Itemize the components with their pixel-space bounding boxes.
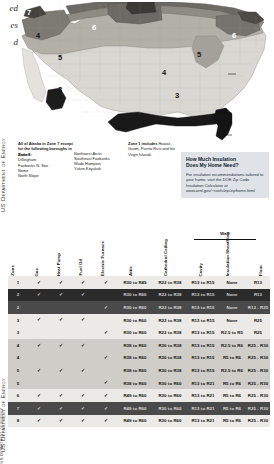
cell-fuel_oil: ✓: [72, 402, 94, 415]
cell-cavity: R13 to R21: [188, 377, 218, 390]
cell-fuel_oil: ✓: [72, 289, 94, 302]
cell-gas: ✓: [28, 314, 50, 327]
table-row[interactable]: 2✓R30 to R60R22 to R38R13 to R15NoneR13 …: [8, 301, 270, 314]
cell-heat_pump: [50, 377, 72, 390]
check-icon: ✓: [104, 329, 108, 335]
cell-sheathing: R5 to R6: [218, 352, 246, 365]
edge-word-3: d: [0, 34, 18, 51]
cell-zone: 1: [8, 276, 28, 289]
cell-zone: 4: [8, 352, 28, 365]
cell-zone: 5: [8, 364, 28, 377]
cell-cavity: R13 to R21: [188, 389, 218, 402]
cell-electric_furnace: [94, 289, 118, 302]
wall-group-rule: [194, 239, 256, 240]
cell-electric_furnace: ✓: [94, 326, 118, 339]
cell-floor: R25: [246, 326, 270, 339]
col-header-cathedral-ceiling: Cathedral Ceiling: [163, 239, 168, 276]
map-zone-label-5-3: 5: [58, 53, 62, 62]
cell-sheathing: R2.5 to R6: [218, 339, 246, 352]
table-row[interactable]: 8✓✓✓✓R49 to R60R30 to R60R13 to R21R5 to…: [8, 415, 270, 428]
cell-sheathing: R5 to R6: [218, 377, 246, 390]
cell-gas: ✓: [28, 339, 50, 352]
cell-attic: R49 to R60: [118, 402, 152, 415]
map-zone-label-2-9: 2: [223, 106, 227, 115]
map-zone-label-7-0: 7: [27, 8, 31, 17]
cell-zone: 8: [8, 415, 28, 428]
col-header-fuel-oil: Fuel Oil: [78, 259, 83, 276]
cell-fuel_oil: [72, 301, 94, 314]
table-row[interactable]: 3✓✓✓R30 to R60R22 to R38R13 to R15NoneR2…: [8, 314, 270, 327]
cell-floor: R13: [246, 289, 270, 302]
table-row[interactable]: 4✓✓✓R38 to R60R30 to R38R13 to R15R2.5 t…: [8, 339, 270, 352]
cell-gas: [28, 326, 50, 339]
cell-electric_furnace: ✓: [94, 402, 118, 415]
edge-word-1: ed: [0, 0, 18, 17]
table-row[interactable]: 5✓R38 to R60R30 to R60R13 to R21R5 to R6…: [8, 377, 270, 390]
cell-attic: R38 to R60: [118, 364, 152, 377]
check-icon: ✓: [37, 342, 41, 348]
col-header-zone: Zone: [10, 265, 15, 276]
cell-fuel_oil: [72, 352, 94, 365]
table-row[interactable]: 6✓✓✓✓R49 to R60R30 to R60R13 to R21R5 to…: [8, 389, 270, 402]
cell-heat_pump: [50, 301, 72, 314]
check-icon: ✓: [37, 405, 41, 411]
table-row[interactable]: 7✓✓✓✓R49 to R60R30 to R60R13 to R21R5 to…: [8, 402, 270, 415]
check-icon: ✓: [81, 392, 85, 398]
cell-cavity: R13 to R15: [188, 289, 218, 302]
cell-zone: 7: [8, 402, 28, 415]
col-header-floor: Floor: [258, 265, 263, 276]
cell-zone: 3: [8, 326, 28, 339]
cell-zone: 4: [8, 339, 28, 352]
table-body: 1✓✓✓✓R30 to R49R22 to R38R13 to R15NoneR…: [8, 276, 270, 427]
page-edge-text: ed es d: [0, 0, 18, 51]
cell-sheathing: None: [218, 301, 246, 314]
cell-gas: [28, 301, 50, 314]
alaska-boroughs-right: Northwest Arctic Southeast Fairbanks Wad…: [74, 151, 126, 172]
table-row[interactable]: 2✓✓✓R30 to R60R22 to R38R13 to R15NoneR1…: [8, 289, 270, 302]
cell-heat_pump: [50, 326, 72, 339]
borough-item: North Slope: [18, 173, 56, 178]
check-icon: ✓: [81, 316, 85, 322]
cell-attic: R30 to R60: [118, 301, 152, 314]
col-header-attic: Attic: [128, 266, 133, 276]
cell-heat_pump: ✓: [50, 415, 72, 428]
cell-cathedral: R22 to R38: [152, 326, 188, 339]
cell-floor: R25 - R30: [246, 377, 270, 390]
cell-attic: R30 to R60: [118, 289, 152, 302]
cell-attic: R49 to R60: [118, 389, 152, 402]
cell-attic: R38 to R60: [118, 377, 152, 390]
check-icon: ✓: [104, 304, 108, 310]
cell-electric_furnace: ✓: [94, 377, 118, 390]
col-header-heat-pump: Heat Pump: [56, 253, 61, 276]
cell-gas: ✓: [28, 289, 50, 302]
table-row[interactable]: 5✓✓✓R38 to R60R30 to R38R13 to R15R2.5 t…: [8, 364, 270, 377]
callout-url[interactable]: www.ornl.gov/~roofs/zip/ziphome.html: [186, 188, 255, 193]
cell-cathedral: R30 to R38: [152, 352, 188, 365]
cell-electric_furnace: ✓: [94, 389, 118, 402]
cell-gas: ✓: [28, 389, 50, 402]
cell-gas: ✓: [28, 415, 50, 428]
table-row[interactable]: 1✓✓✓✓R30 to R49R22 to R38R13 to R15NoneR…: [8, 276, 270, 289]
cell-gas: ✓: [28, 402, 50, 415]
cell-electric_furnace: [94, 314, 118, 327]
check-icon: ✓: [104, 279, 108, 285]
cell-zone: 3: [8, 314, 28, 327]
check-icon: ✓: [59, 417, 63, 423]
cell-zone: 2: [8, 289, 28, 302]
callout-heading-line2: Does My Home Need?: [186, 162, 239, 168]
cell-heat_pump: ✓: [50, 314, 72, 327]
table-row[interactable]: 4✓R38 to R60R30 to R38R13 to R15R5 to R6…: [8, 352, 270, 365]
cell-attic: R38 to R60: [118, 339, 152, 352]
doe-vertical-rail-top: US Department of Energy: [0, 138, 6, 212]
cell-heat_pump: ✓: [50, 276, 72, 289]
check-icon: ✓: [37, 367, 41, 373]
cell-floor: R13 - R25: [246, 301, 270, 314]
cell-cathedral: R22 to R38: [152, 289, 188, 302]
check-icon: ✓: [81, 291, 85, 297]
cell-heat_pump: ✓: [50, 289, 72, 302]
table-row[interactable]: 3✓R30 to R60R22 to R38R13 to R15R2.5 to …: [8, 326, 270, 339]
cell-electric_furnace: ✓: [94, 276, 118, 289]
cell-cavity: R13 to R15: [188, 276, 218, 289]
check-icon: ✓: [59, 405, 63, 411]
check-icon: ✓: [59, 291, 63, 297]
